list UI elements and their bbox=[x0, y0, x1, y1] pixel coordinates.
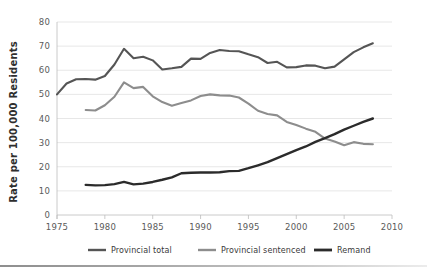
x-tick-label-1980: 1980 bbox=[94, 222, 116, 232]
y-tick-label-40: 40 bbox=[39, 114, 50, 124]
legend-label-remand: Remand bbox=[337, 246, 371, 255]
y-tick-label-30: 30 bbox=[39, 138, 50, 148]
y-axis-title: Rate per 100,000 Residents bbox=[8, 41, 19, 203]
legend-label-provincial-sentenced: Provincial sentenced bbox=[221, 246, 306, 255]
y-axis-title-text: Rate per 100,000 Residents bbox=[8, 41, 19, 203]
y-tick-label-20: 20 bbox=[39, 162, 50, 172]
y-tick-label-70: 70 bbox=[39, 41, 50, 51]
y-tick-label-50: 50 bbox=[39, 89, 50, 99]
x-tick-label-2005: 2005 bbox=[333, 222, 355, 232]
page-bottom-rule bbox=[0, 265, 427, 267]
y-axis-tick-labels: 01020304050607080 bbox=[39, 17, 50, 220]
x-tick-label-1990: 1990 bbox=[189, 222, 211, 232]
x-tick-label-2000: 2000 bbox=[285, 222, 307, 232]
y-tick-label-10: 10 bbox=[39, 186, 50, 196]
y-tick-label-0: 0 bbox=[44, 210, 50, 220]
chart-figure: 01020304050607080 1975198019851990199520… bbox=[0, 0, 427, 275]
legend-label-provincial-total: Provincial total bbox=[111, 246, 172, 255]
x-tick-label-1975: 1975 bbox=[46, 222, 68, 232]
y-tick-label-80: 80 bbox=[39, 17, 50, 27]
chart-background bbox=[0, 0, 427, 275]
line-chart-canvas: 01020304050607080 1975198019851990199520… bbox=[0, 0, 427, 275]
y-tick-label-60: 60 bbox=[39, 65, 50, 75]
x-tick-label-2010: 2010 bbox=[381, 222, 403, 232]
x-tick-label-1995: 1995 bbox=[237, 222, 259, 232]
x-tick-label-1985: 1985 bbox=[141, 222, 163, 232]
